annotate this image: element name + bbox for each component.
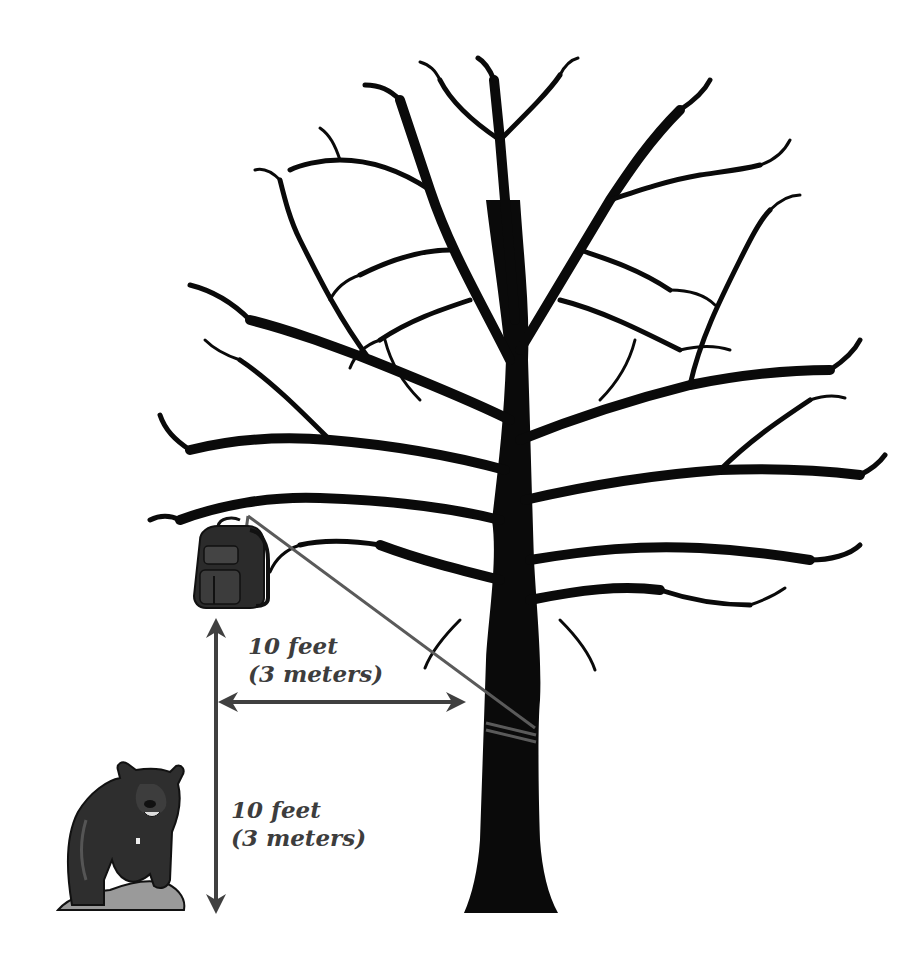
- tree-icon: [150, 58, 885, 913]
- horizontal-distance-feet: 10 feet: [248, 632, 383, 660]
- horizontal-distance-label: 10 feet (3 meters): [248, 632, 383, 688]
- vertical-height-feet: 10 feet: [231, 796, 366, 824]
- bear-bag-diagram: 10 feet (3 meters) 10 feet (3 meters): [0, 0, 917, 973]
- backpack-icon: [194, 518, 268, 608]
- vertical-height-meters: (3 meters): [231, 824, 366, 852]
- horizontal-distance-meters: (3 meters): [248, 660, 383, 688]
- bear-icon: [58, 762, 184, 910]
- vertical-height-label: 10 feet (3 meters): [231, 796, 366, 852]
